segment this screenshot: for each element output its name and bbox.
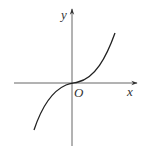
function-graph: y x O <box>0 0 148 154</box>
y-axis-label: y <box>59 7 67 22</box>
x-axis-label: x <box>126 84 133 99</box>
origin-label: O <box>74 85 84 100</box>
function-curve <box>34 33 115 130</box>
